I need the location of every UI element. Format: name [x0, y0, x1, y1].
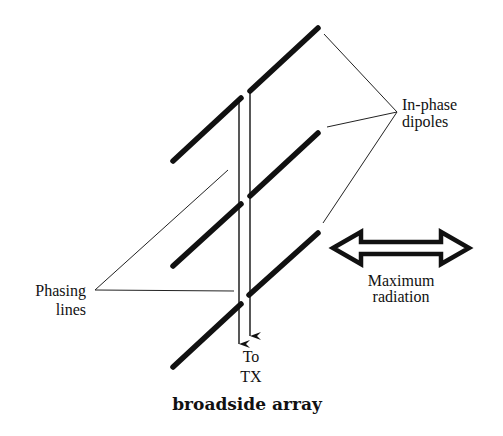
maximum-radiation-arrow [333, 232, 469, 264]
dipoles [173, 28, 318, 367]
maximum-radiation-label-line1: Maximum [368, 272, 435, 289]
maximum-radiation-label-line2: radiation [373, 288, 430, 305]
to-tx-label-line2: TX [240, 368, 262, 385]
dipole-bottom-right [249, 233, 318, 295]
dipole-top-right [250, 28, 318, 91]
broadside-array-diagram: In-phase dipoles Maximum radiation Phasi… [0, 0, 503, 436]
dipole-bottom-left [173, 304, 241, 367]
phasing-lines-label-line1: Phasing [35, 282, 86, 300]
dipole-top-left [173, 98, 241, 161]
phasing-lines-label-line2: lines [56, 301, 86, 318]
to-tx-label-line1: To [243, 348, 260, 365]
diagram-caption: broadside array [172, 394, 323, 414]
dipole-middle-left [173, 204, 241, 266]
dipole-middle-right [250, 133, 318, 196]
in-phase-label-line2: dipoles [402, 113, 448, 131]
in-phase-leaders [323, 34, 397, 223]
in-phase-label-line1: In-phase [402, 96, 457, 114]
